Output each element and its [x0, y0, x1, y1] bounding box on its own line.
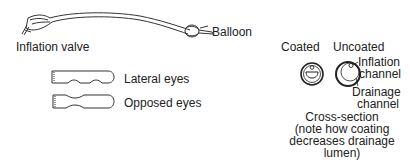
inflation-channel-label-line2: channel — [359, 68, 401, 80]
inflation-valve-label: Inflation valve — [16, 41, 89, 53]
balloon-icon — [185, 25, 213, 37]
uncoated-label: Uncoated — [333, 41, 384, 53]
lateral-eyes-label: Lateral eyes — [124, 73, 189, 85]
drainage-channel-label-line2: channel — [357, 98, 399, 110]
cross-section-caption: Cross-section (note how coating decrease… — [282, 111, 402, 159]
uncoated-cross-section-icon — [336, 62, 360, 86]
coated-cross-section-icon — [301, 63, 323, 85]
opposed-eyes-label: Opposed eyes — [124, 97, 201, 109]
lateral-eyes-tip-drawing — [52, 71, 114, 83]
caption-line: lumen) — [282, 147, 402, 159]
opposed-eyes-tip-drawing — [53, 95, 114, 108]
balloon-label: Balloon — [212, 26, 252, 38]
catheter-drawing — [22, 13, 213, 37]
coated-label: Coated — [281, 41, 320, 53]
inflation-valve-icon — [22, 15, 52, 35]
